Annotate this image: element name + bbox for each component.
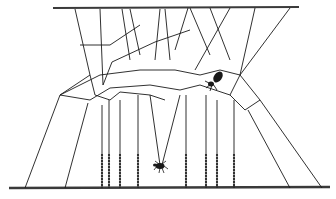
dewdrop <box>185 175 187 177</box>
web-thread <box>175 8 188 50</box>
dewdrop <box>119 154 121 156</box>
web-thread <box>240 75 260 100</box>
dewdrop <box>233 175 235 177</box>
dewdrop <box>185 172 187 174</box>
dewdrop <box>233 166 235 168</box>
web-thread <box>260 100 322 188</box>
web-thread <box>90 88 110 100</box>
dewdrop <box>108 172 110 174</box>
bottom-support-bar <box>9 187 330 188</box>
web-thread <box>100 9 103 85</box>
web-thread <box>150 95 160 165</box>
web-thread <box>65 103 88 188</box>
dewdrop <box>233 184 235 186</box>
web-thread <box>120 92 150 95</box>
dewdrop <box>108 184 110 186</box>
dewdrop <box>119 169 121 171</box>
web-thread <box>75 9 90 75</box>
web-thread <box>220 70 240 75</box>
dewdrop <box>101 163 103 165</box>
dewdrop <box>108 178 110 180</box>
dewdrop <box>216 166 218 168</box>
dewdrop <box>108 154 110 156</box>
web-thread <box>245 100 260 110</box>
dewdrop <box>119 178 121 180</box>
dewdrop <box>101 178 103 180</box>
dewdrop <box>233 163 235 165</box>
dewdrop <box>137 154 139 156</box>
dewdrop <box>137 175 139 177</box>
dewdrop <box>119 175 121 177</box>
dewdrop <box>108 169 110 171</box>
dewdrop <box>137 172 139 174</box>
web-thread <box>175 70 200 75</box>
web-thread <box>195 8 230 70</box>
web-thread <box>60 95 90 100</box>
web-thread <box>60 75 90 95</box>
dewdrop <box>137 160 139 162</box>
dewdrop <box>137 166 139 168</box>
dewdrop <box>108 181 110 183</box>
dewdrop <box>216 154 218 156</box>
dewdrop <box>205 169 207 171</box>
web-thread <box>130 9 140 55</box>
web-thread <box>155 9 160 60</box>
dewdrop <box>205 163 207 165</box>
web-threads <box>25 8 322 188</box>
dewdrop <box>108 160 110 162</box>
dewdrop <box>185 163 187 165</box>
dewdrop <box>119 166 121 168</box>
web-thread <box>150 85 180 90</box>
dewdrop <box>137 184 139 186</box>
dewdrop <box>216 175 218 177</box>
dewdrop <box>101 169 103 171</box>
dewdrop <box>101 181 103 183</box>
dewdrop <box>101 172 103 174</box>
dewdrop <box>233 178 235 180</box>
web-thread <box>162 95 180 165</box>
web-thread <box>210 8 230 60</box>
dewdrop <box>119 172 121 174</box>
dewdrop <box>233 160 235 162</box>
dewdrop <box>108 163 110 165</box>
dewdrop <box>233 157 235 159</box>
dewdrop <box>137 178 139 180</box>
dewdrop <box>137 181 139 183</box>
web-thread <box>230 75 240 95</box>
dewdrop <box>216 157 218 159</box>
dewdrop <box>119 160 121 162</box>
dewdrop <box>119 163 121 165</box>
dewdrop <box>233 172 235 174</box>
dewdrop <box>205 160 207 162</box>
dewdrop <box>185 178 187 180</box>
dewdrop <box>101 160 103 162</box>
dewdrop <box>216 178 218 180</box>
dewdrop <box>205 166 207 168</box>
dewdrop <box>137 163 139 165</box>
web-thread <box>100 70 140 75</box>
web-thread <box>95 95 110 100</box>
web-thread <box>110 85 150 88</box>
web-thread <box>155 30 190 42</box>
spider-web-drawing <box>0 0 336 199</box>
web-thread <box>180 85 200 90</box>
spider-web-figure <box>0 0 336 199</box>
web-thread <box>110 92 120 100</box>
dewdrop <box>216 163 218 165</box>
dewdrop <box>119 184 121 186</box>
dewdrop <box>205 157 207 159</box>
dewdrop <box>216 184 218 186</box>
dewdrop <box>205 154 207 156</box>
dewdrop <box>233 154 235 156</box>
dewdrop <box>233 181 235 183</box>
dewdrop <box>101 175 103 177</box>
dewdrop <box>185 157 187 159</box>
dewdrop <box>185 181 187 183</box>
dewdrop <box>185 184 187 186</box>
web-thread <box>230 95 245 110</box>
dewdrops <box>101 154 235 186</box>
dewdrop <box>216 181 218 183</box>
dewdrop <box>101 184 103 186</box>
web-thread <box>112 42 155 62</box>
dewdrop <box>205 172 207 174</box>
